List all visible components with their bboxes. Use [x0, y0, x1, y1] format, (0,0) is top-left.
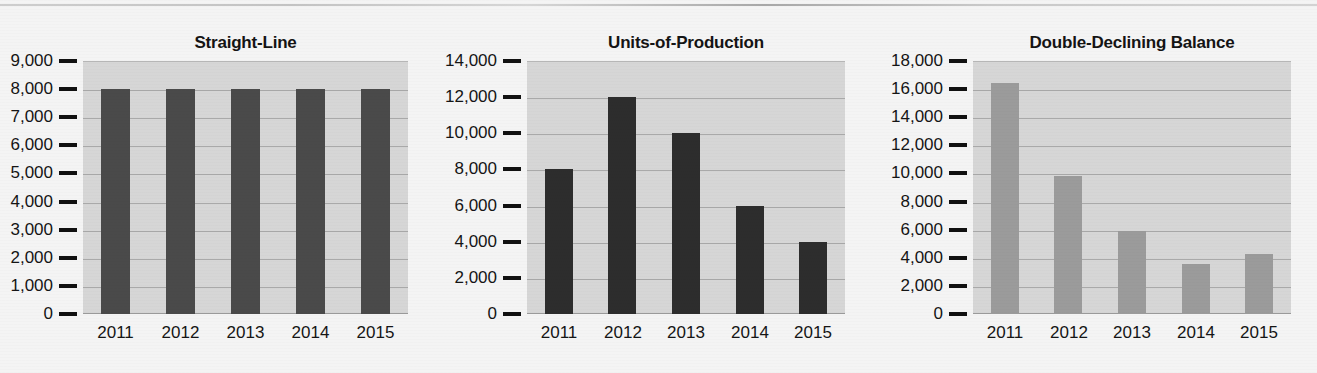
y-tick-mark [503, 204, 521, 208]
bar-2012 [1054, 176, 1082, 314]
y-tick-label: 12,000 [440, 88, 497, 105]
y-tick-mark [59, 143, 77, 147]
y-tick-mark [503, 59, 521, 63]
y-tick-label: 0 [877, 305, 943, 322]
y-tick-mark [949, 143, 967, 147]
y-tick-mark [59, 171, 77, 175]
y-tick-mark [59, 256, 77, 260]
x-tick-label-2012: 2012 [1037, 324, 1101, 342]
x-tick-label-2011: 2011 [527, 324, 591, 342]
bar-2013 [672, 133, 700, 314]
bar-2011 [545, 169, 573, 314]
y-tick-mark [59, 228, 77, 232]
y-tick-label: 1,000 [0, 277, 53, 294]
gridline [973, 118, 1291, 119]
y-tick-mark [949, 256, 967, 260]
chart-title-straight-line: Straight-Line [83, 33, 408, 53]
y-tick-label: 10,000 [440, 124, 497, 141]
y-tick-mark [59, 284, 77, 288]
y-tick-label: 8,000 [440, 160, 497, 177]
gridline [973, 146, 1291, 147]
x-tick-label-2014: 2014 [718, 324, 782, 342]
y-tick-label: 4,000 [877, 249, 943, 266]
y-tick-mark [949, 87, 967, 91]
x-tick-label-2014: 2014 [1164, 324, 1228, 342]
y-tick-mark [503, 276, 521, 280]
y-tick-label: 6,000 [0, 136, 53, 153]
bar-2015 [1245, 254, 1273, 314]
y-tick-label: 10,000 [877, 164, 943, 181]
chart-double-declining-balance: Double-Declining Balance 02,0004,0006,00… [877, 0, 1317, 373]
y-tick-label: 5,000 [0, 164, 53, 181]
chart-straight-line: Straight-Line 01,0002,0003,0004,0005,000… [0, 0, 440, 373]
x-tick-label-2013: 2013 [213, 324, 278, 342]
y-tick-label: 12,000 [877, 136, 943, 153]
bar-2014 [736, 206, 764, 314]
y-tick-label: 2,000 [877, 277, 943, 294]
plot-area-double-declining-balance [973, 61, 1291, 314]
y-tick-mark [949, 312, 967, 316]
y-tick-label: 4,000 [440, 233, 497, 250]
y-tick-label: 16,000 [877, 80, 943, 97]
y-tick-label: 6,000 [877, 221, 943, 238]
x-tick-label-2015: 2015 [343, 324, 408, 342]
x-tick-label-2011: 2011 [973, 324, 1037, 342]
chart-title-units-of-production: Units-of-Production [527, 33, 845, 53]
y-tick-label: 0 [0, 305, 53, 322]
y-tick-label: 8,000 [877, 193, 943, 210]
bar-2011 [101, 89, 130, 314]
bar-2014 [296, 89, 325, 314]
chart-units-of-production: Units-of-Production 02,0004,0006,0008,00… [440, 0, 880, 373]
x-tick-label-2012: 2012 [591, 324, 655, 342]
gridline [973, 90, 1291, 91]
y-tick-label: 4,000 [0, 193, 53, 210]
y-tick-mark [949, 171, 967, 175]
chart-title-double-declining-balance: Double-Declining Balance [973, 33, 1291, 53]
y-tick-label: 14,000 [440, 52, 497, 69]
y-tick-mark [59, 200, 77, 204]
y-tick-label: 14,000 [877, 108, 943, 125]
y-tick-mark [59, 59, 77, 63]
y-tick-mark [59, 312, 77, 316]
y-tick-mark [949, 115, 967, 119]
gridline [973, 174, 1291, 175]
y-tick-mark [503, 240, 521, 244]
x-tick-label-2013: 2013 [654, 324, 718, 342]
y-tick-mark [949, 59, 967, 63]
y-tick-label: 0 [440, 305, 497, 322]
gridline [527, 98, 845, 99]
x-tick-label-2014: 2014 [278, 324, 343, 342]
y-tick-mark [59, 87, 77, 91]
bar-2013 [231, 89, 260, 314]
y-tick-label: 2,000 [440, 269, 497, 286]
gridline [973, 203, 1291, 204]
y-tick-mark [949, 284, 967, 288]
plot-area-units-of-production [527, 61, 845, 314]
y-tick-mark [503, 131, 521, 135]
y-tick-label: 7,000 [0, 108, 53, 125]
x-tick-label-2012: 2012 [148, 324, 213, 342]
bar-2015 [361, 89, 390, 314]
bar-2012 [608, 97, 636, 314]
y-tick-label: 3,000 [0, 221, 53, 238]
y-tick-mark [503, 312, 521, 316]
y-tick-label: 2,000 [0, 249, 53, 266]
x-tick-label-2015: 2015 [1227, 324, 1291, 342]
bar-2014 [1182, 264, 1210, 314]
y-tick-mark [59, 115, 77, 119]
y-tick-label: 6,000 [440, 197, 497, 214]
bar-2015 [799, 242, 827, 314]
x-tick-label-2015: 2015 [781, 324, 845, 342]
y-tick-mark [503, 167, 521, 171]
bar-2013 [1118, 231, 1146, 314]
y-tick-mark [949, 200, 967, 204]
bar-2011 [991, 83, 1019, 314]
x-tick-label-2011: 2011 [83, 324, 148, 342]
plot-area-straight-line [83, 61, 408, 314]
y-tick-label: 8,000 [0, 80, 53, 97]
y-tick-mark [503, 95, 521, 99]
x-tick-label-2013: 2013 [1100, 324, 1164, 342]
charts-row: Straight-Line 01,0002,0003,0004,0005,000… [0, 0, 1317, 373]
y-tick-mark [949, 228, 967, 232]
y-tick-label: 18,000 [877, 52, 943, 69]
